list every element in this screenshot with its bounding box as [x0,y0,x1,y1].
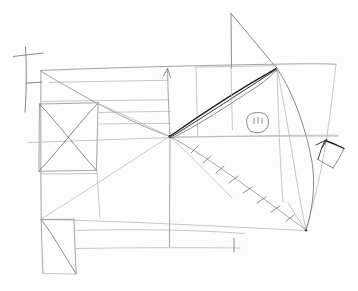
hand-drawn-sketch [0,0,358,291]
lower-right-hub-point [305,229,308,232]
sketch-canvas [0,0,358,291]
center-hub-point [168,135,171,138]
